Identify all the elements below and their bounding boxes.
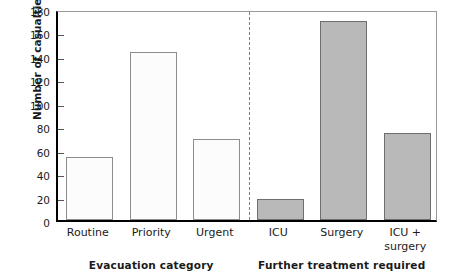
plot-area: 180160140120100806040200 bbox=[56, 11, 437, 222]
bar-priority bbox=[130, 52, 177, 220]
x-tick-label: Urgent bbox=[183, 226, 247, 240]
x-tick-label: ICU +surgery bbox=[374, 226, 438, 253]
group-divider bbox=[249, 12, 250, 220]
x-tick-label: Routine bbox=[56, 226, 120, 240]
y-tick-label: 180 bbox=[6, 5, 50, 19]
bars-layer bbox=[58, 12, 436, 220]
bar-routine bbox=[66, 157, 113, 220]
bar-surgery bbox=[320, 21, 367, 220]
x-tick-label: ICU bbox=[247, 226, 311, 240]
x-tick-label: Surgery bbox=[310, 226, 374, 240]
bar-icu-surgery bbox=[384, 133, 431, 220]
group-title-evacuation-category: Evacuation category bbox=[56, 259, 247, 271]
y-tick-label: 100 bbox=[6, 99, 50, 113]
group-title-further-treatment: Further treatment required bbox=[247, 259, 438, 271]
bar-urgent bbox=[193, 139, 240, 220]
y-tick-label: 160 bbox=[6, 28, 50, 42]
y-tick-label: 0 bbox=[6, 216, 50, 230]
x-tick-label: Priority bbox=[120, 226, 184, 240]
y-tick-label: 20 bbox=[6, 193, 50, 207]
bar-chart-figure: Number of casualties 1801601401201008060… bbox=[0, 0, 451, 280]
bar-icu bbox=[257, 199, 304, 220]
y-tick-label: 120 bbox=[6, 75, 50, 89]
y-tick-label: 80 bbox=[6, 122, 50, 136]
y-tick-label: 140 bbox=[6, 52, 50, 66]
y-tick-label: 60 bbox=[6, 146, 50, 160]
y-tick-label: 40 bbox=[6, 169, 50, 183]
